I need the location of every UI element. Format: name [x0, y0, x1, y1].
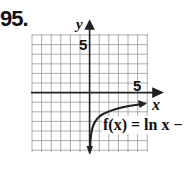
function-label: f(x) = ln x − — [102, 116, 184, 134]
x-axis-label: x — [152, 96, 160, 114]
y-axis-label: y — [76, 16, 83, 33]
graph — [0, 0, 195, 177]
y-tick-label: 5 — [79, 36, 87, 53]
x-tick-label: 5 — [133, 77, 141, 94]
